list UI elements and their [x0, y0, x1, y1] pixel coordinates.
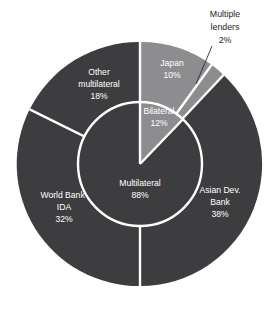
label-japan-name: Japan [160, 58, 184, 68]
label-bilateral-name: Bilateral [143, 106, 174, 116]
label-adb-line2: Bank [210, 197, 230, 207]
label-bilateral-pct: 12% [150, 118, 168, 128]
label-adb-line1: Asian Dev. [200, 185, 241, 195]
label-japan-pct: 10% [163, 70, 181, 80]
label-multilateral-name: Multilateral [119, 178, 161, 188]
pie-chart-svg: Japan 10% Other multilateral 18% World B… [0, 0, 279, 314]
pie-chart-figure: Japan 10% Other multilateral 18% World B… [0, 0, 279, 314]
label-multiple-lenders-pct: 2% [219, 35, 232, 45]
label-adb-pct: 38% [211, 209, 229, 219]
label-multiple-lenders-line1: Multiple [210, 9, 240, 19]
label-world-bank-line2: IDA [57, 202, 72, 212]
label-other-multilateral-pct: 18% [90, 91, 108, 101]
label-multiple-lenders: Multiple lenders 2% [210, 9, 240, 45]
label-world-bank-pct: 32% [55, 214, 73, 224]
label-multilateral-pct: 88% [131, 190, 149, 200]
label-world-bank-line1: World Bank- [40, 190, 87, 200]
label-other-multilateral-line1: Other [88, 67, 110, 77]
label-other-multilateral-line2: multilateral [78, 79, 120, 89]
label-multiple-lenders-line2: lenders [211, 22, 240, 32]
